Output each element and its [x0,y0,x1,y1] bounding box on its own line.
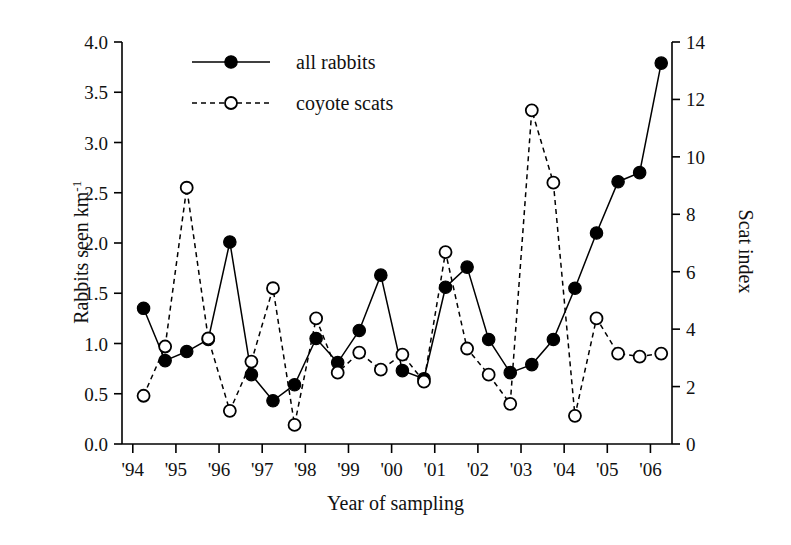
data-point-coyote-scats [483,369,495,381]
legend-label: all rabbits [296,51,376,73]
x-tick-label: '01 [424,459,446,480]
data-point-coyote-scats [655,348,667,360]
y-tick-label-left: 3.5 [84,82,108,103]
y-tick-label-right: 14 [686,32,706,53]
y-tick-label-right: 0 [686,434,696,455]
chart-legend: all rabbitscoyote scats [192,51,393,115]
x-tick-label: '94 [122,459,145,480]
data-point-coyote-scats [396,349,408,361]
data-point-all-rabbits [267,395,279,407]
x-tick-label: '97 [251,459,273,480]
data-point-coyote-scats [138,390,150,402]
data-point-coyote-scats [440,246,452,258]
x-axis-ticks: '94'95'96'97'98'99'00'01'02'03'04'05'06 [122,444,662,480]
data-point-coyote-scats [332,367,344,379]
legend-marker [225,97,237,109]
data-point-all-rabbits [655,57,667,69]
data-point-all-rabbits [547,333,559,345]
data-point-all-rabbits [612,175,624,187]
data-point-all-rabbits [439,281,451,293]
data-point-coyote-scats [547,177,559,189]
data-point-coyote-scats [310,312,322,324]
data-point-all-rabbits [224,236,236,248]
data-point-coyote-scats [504,398,516,410]
data-point-coyote-scats [418,376,430,388]
legend-label: coyote scats [296,92,393,115]
data-point-coyote-scats [289,419,301,431]
data-point-all-rabbits [461,261,473,273]
x-tick-label: '00 [380,459,402,480]
data-point-all-rabbits [590,227,602,239]
data-point-all-rabbits [633,166,645,178]
x-tick-label: '95 [165,459,187,480]
data-point-coyote-scats [267,282,279,294]
y-axis-right-ticks: 02468101214 [672,32,706,455]
data-point-coyote-scats [353,347,365,359]
data-point-all-rabbits [288,379,300,391]
x-tick-label: '06 [639,459,661,480]
data-point-coyote-scats [245,356,257,368]
data-point-coyote-scats [526,104,538,116]
data-point-all-rabbits [353,324,365,336]
data-point-all-rabbits [159,354,171,366]
y-tick-label-right: 2 [686,377,696,398]
data-point-all-rabbits [181,345,193,357]
y-tick-label-left: 0.0 [84,434,108,455]
data-point-coyote-scats [461,343,473,355]
data-point-all-rabbits [375,269,387,281]
x-axis-title: Year of sampling [0,492,791,515]
x-tick-label: '99 [337,459,359,480]
data-point-all-rabbits [137,302,149,314]
y-axis-right-title: Scat index [734,107,757,397]
data-point-coyote-scats [375,364,387,376]
y-tick-label-right: 12 [686,89,705,110]
data-point-coyote-scats [634,351,646,363]
data-point-all-rabbits [526,358,538,370]
line-chart: 0.00.51.01.52.02.53.03.54.0 02468101214 … [0,0,791,545]
x-tick-label: '96 [208,459,230,480]
data-point-coyote-scats [202,332,214,344]
data-point-all-rabbits [504,366,516,378]
data-point-coyote-scats [612,348,624,360]
y-tick-label-right: 6 [686,262,696,283]
data-point-coyote-scats [569,410,581,422]
data-point-all-rabbits [245,368,257,380]
y-axis-left-title: Rabbits seen km-1 [69,107,94,397]
x-tick-label: '02 [467,459,489,480]
x-tick-label: '98 [294,459,316,480]
data-point-coyote-scats [591,312,603,324]
legend-marker [225,56,237,68]
data-point-coyote-scats [224,405,236,417]
y-axis-left-title-exponent: -1 [69,181,84,192]
data-point-coyote-scats [181,182,193,194]
data-point-coyote-scats [159,341,171,353]
y-tick-label-right: 4 [686,319,696,340]
y-axis-left-title-text: Rabbits seen km [70,192,92,324]
y-tick-label-right: 10 [686,147,705,168]
x-tick-label: '03 [510,459,532,480]
x-tick-label: '05 [596,459,618,480]
x-tick-label: '04 [553,459,576,480]
y-tick-label-left: 4.0 [84,32,108,53]
y-tick-label-right: 8 [686,204,696,225]
data-point-all-rabbits [396,364,408,376]
data-series-layer [137,57,667,431]
figure-container: 0.00.51.01.52.02.53.03.54.0 02468101214 … [0,0,791,545]
data-point-all-rabbits [482,333,494,345]
data-point-all-rabbits [569,282,581,294]
